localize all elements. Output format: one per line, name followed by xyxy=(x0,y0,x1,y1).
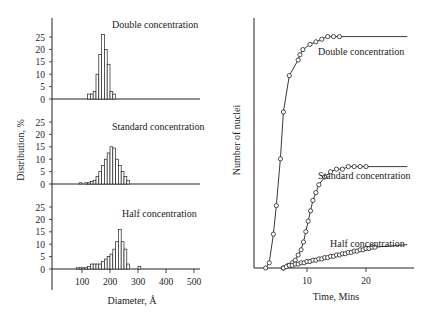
svg-text:5: 5 xyxy=(40,82,45,92)
svg-text:20: 20 xyxy=(36,215,46,225)
svg-text:25: 25 xyxy=(36,203,46,213)
label-half: Half concentration xyxy=(122,208,197,219)
svg-text:15: 15 xyxy=(36,227,46,237)
right-label-standard: Standard concentration xyxy=(318,170,410,181)
histogram-standard xyxy=(52,147,200,184)
nucleation-figure: 0510152025051015202505101520251002003004… xyxy=(0,0,430,321)
nuclei-curves xyxy=(264,35,408,271)
svg-text:25: 25 xyxy=(36,33,46,43)
svg-text:5: 5 xyxy=(40,167,45,177)
svg-text:100: 100 xyxy=(75,277,90,287)
left-x-label: Diameter, Å xyxy=(107,295,157,306)
right-y-label: Number of nuclei xyxy=(231,105,242,176)
right-ticks: 1020 xyxy=(302,268,371,286)
svg-text:0: 0 xyxy=(40,265,45,275)
right-label-double: Double concentration xyxy=(318,46,404,57)
label-standard: Standard concentration xyxy=(112,121,204,132)
right-label-half: Half concentration xyxy=(330,238,405,249)
svg-text:0: 0 xyxy=(40,95,45,105)
svg-text:400: 400 xyxy=(159,277,174,287)
label-double: Double concentration xyxy=(112,19,198,30)
svg-text:25: 25 xyxy=(36,118,46,128)
svg-text:20: 20 xyxy=(36,45,46,55)
svg-text:10: 10 xyxy=(36,155,46,165)
right-x-label: Time, Mins xyxy=(313,291,359,302)
svg-text:15: 15 xyxy=(36,57,46,67)
svg-text:5: 5 xyxy=(40,252,45,262)
svg-text:20: 20 xyxy=(36,130,46,140)
histogram-double xyxy=(52,35,200,99)
svg-text:10: 10 xyxy=(36,70,46,80)
svg-text:10: 10 xyxy=(302,276,312,286)
svg-text:200: 200 xyxy=(103,277,118,287)
svg-text:500: 500 xyxy=(187,277,202,287)
left-y-label: Distribution, % xyxy=(15,119,26,181)
svg-text:20: 20 xyxy=(361,276,371,286)
histogram-half xyxy=(52,229,200,269)
svg-text:15: 15 xyxy=(36,142,46,152)
svg-text:300: 300 xyxy=(131,277,146,287)
svg-text:10: 10 xyxy=(36,240,46,250)
svg-text:0: 0 xyxy=(40,180,45,190)
